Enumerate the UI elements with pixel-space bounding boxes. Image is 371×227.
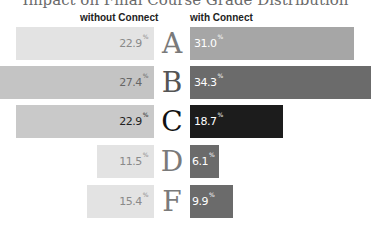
percent-sign: %: [143, 111, 148, 118]
value-label: 6.1: [192, 155, 208, 168]
value-label: 31.0: [194, 37, 217, 50]
value-label: 34.3: [194, 76, 217, 89]
bar-with-b: 34.3%: [190, 66, 371, 99]
chart-title: Impact on Final Course Grade Distributio…: [0, 0, 371, 9]
percent-sign: %: [143, 151, 148, 158]
bar-without-d: 11.5%: [97, 145, 154, 178]
percent-sign: %: [218, 111, 223, 118]
value-label: 27.4: [119, 76, 142, 89]
value-label: 22.9: [119, 37, 142, 50]
percent-sign: %: [143, 191, 148, 198]
percent-sign: %: [209, 151, 214, 158]
bar-with-c: 18.7%: [190, 105, 283, 138]
grade-f: F: [154, 185, 190, 218]
value-label: 18.7: [194, 115, 217, 128]
bar-with-f: 9.9%: [190, 185, 233, 218]
percent-sign: %: [218, 72, 223, 79]
bar-without-b: 27.4%: [0, 66, 154, 99]
percent-sign: %: [143, 72, 148, 79]
value-label: 22.9: [119, 115, 142, 128]
percent-sign: %: [218, 33, 223, 40]
percent-sign: %: [209, 191, 214, 198]
grade-a: A: [154, 27, 190, 60]
value-label: 11.5: [119, 155, 142, 168]
value-label: 9.9: [192, 195, 208, 208]
header-with-connect: with Connect: [190, 12, 253, 23]
percent-sign: %: [143, 33, 148, 40]
header-without-connect: without Connect: [80, 12, 158, 23]
bar-without-f: 15.4%: [87, 185, 154, 218]
bar-with-a: 31.0%: [190, 27, 354, 60]
grade-b: B: [154, 66, 190, 99]
grade-d: D: [154, 145, 190, 178]
grade-c: C: [154, 105, 190, 138]
bar-without-c: 22.9%: [16, 105, 154, 138]
bar-without-a: 22.9%: [16, 27, 154, 60]
value-label: 15.4: [119, 195, 142, 208]
bar-with-d: 6.1%: [190, 145, 219, 178]
